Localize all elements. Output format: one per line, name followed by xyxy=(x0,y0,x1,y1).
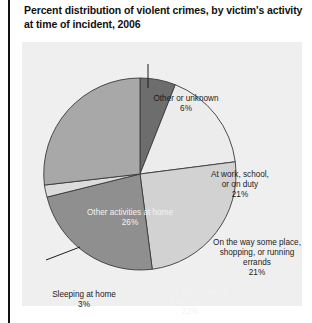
pie-slice-other-activities-at-home xyxy=(44,78,140,185)
slice-callout-other-or-unknown: Other or unknown 6% xyxy=(130,94,242,114)
slice-label-other-activities-line1: Other activities at home xyxy=(70,208,190,218)
slice-label-on-the-way-line2: shopping, or running xyxy=(194,248,312,258)
slice-label-leisure-line1: Leisure activity away xyxy=(132,287,248,297)
leader-line-sleeping-at-home xyxy=(46,247,80,260)
pie-chart-figure: Percent distribution of violent crimes, … xyxy=(0,0,312,323)
slice-label-at-work-line2: or on duty xyxy=(190,180,290,190)
slice-label-on-the-way-shopping-errands: On the way some place, shopping, or runn… xyxy=(194,238,312,278)
slice-callout-other-or-unknown-name: Other or unknown xyxy=(130,94,242,104)
slice-label-leisure-activity-away-from-home: Leisure activity away from home 23% xyxy=(132,287,248,317)
slice-label-leisure-line2: from home xyxy=(132,297,248,307)
slice-callout-sleeping-at-home: Sleeping at home 3% xyxy=(32,290,136,310)
slice-label-leisure-value: 23% xyxy=(132,307,248,317)
slice-callout-sleeping-at-home-name: Sleeping at home xyxy=(32,290,136,300)
slice-label-on-the-way-line3: errands xyxy=(194,258,312,268)
page-title: Percent distribution of violent crimes, … xyxy=(24,4,304,31)
slice-label-other-activities-value: 26% xyxy=(70,218,190,228)
slice-label-at-work-line1: At work, school, xyxy=(190,170,290,180)
slice-callout-other-or-unknown-value: 6% xyxy=(130,104,242,114)
slice-label-at-work-value: 21% xyxy=(190,190,290,200)
left-margin-rule xyxy=(8,0,10,323)
slice-label-on-the-way-line1: On the way some place, xyxy=(194,238,312,248)
chart-plot-area: Other or unknown 6% Sleeping at home 3% … xyxy=(22,42,302,306)
slice-callout-sleeping-at-home-value: 3% xyxy=(32,300,136,310)
slice-label-other-activities-at-home: Other activities at home 26% xyxy=(70,208,190,228)
slice-label-at-work-school-or-on-duty: At work, school, or on duty 21% xyxy=(190,170,290,200)
slice-label-on-the-way-value: 21% xyxy=(194,268,312,278)
